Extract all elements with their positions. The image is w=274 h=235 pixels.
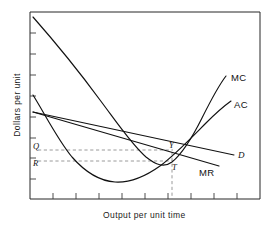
label-level-q: Q bbox=[33, 141, 39, 151]
x-axis-ticks bbox=[53, 193, 237, 199]
x-axis-title: Output per unit time bbox=[103, 210, 186, 220]
chart-canvas: MC AC D MR Y T Q R Output per unit time … bbox=[0, 0, 274, 235]
economics-cost-revenue-chart: MC AC D MR Y T Q R Output per unit time … bbox=[0, 0, 274, 235]
label-point-y: Y bbox=[169, 140, 175, 150]
label-d: D bbox=[237, 150, 245, 160]
label-ac: AC bbox=[234, 99, 248, 110]
label-mr: MR bbox=[199, 167, 214, 178]
label-point-t: T bbox=[172, 162, 178, 172]
guide-lines bbox=[38, 150, 173, 199]
label-level-r: R bbox=[32, 158, 39, 168]
y-axis-title: Dollars per unit bbox=[12, 73, 22, 137]
curve-d bbox=[33, 112, 234, 155]
label-mc: MC bbox=[231, 72, 246, 83]
